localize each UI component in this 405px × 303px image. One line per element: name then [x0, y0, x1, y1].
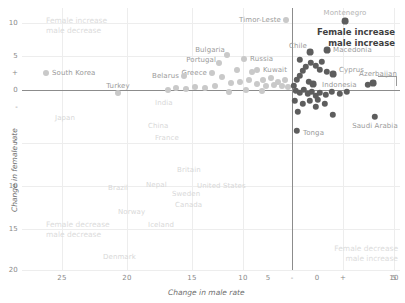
point-label-united-states: United States [197, 182, 246, 190]
point-label-denmark: Denmark [103, 253, 136, 261]
point-label-russia: Russia [250, 55, 273, 63]
point-label-portugal: Portugal [186, 56, 216, 64]
x-tick-label: 10 [389, 274, 398, 282]
point-label-canada: Canada [175, 201, 202, 209]
quadrant-note-bottom-right: Female decrease male increase [280, 244, 398, 264]
data-point [268, 75, 274, 81]
point-label-saudi-arabia: Saudi Arabia [352, 122, 398, 130]
data-point [300, 101, 306, 107]
x-tick-label: 0 [315, 274, 320, 282]
point-label-japan: Japan [55, 114, 75, 122]
point-label-nepal: Nepal [146, 181, 167, 189]
data-point [342, 18, 349, 25]
data-point [165, 87, 171, 93]
data-point [313, 104, 319, 110]
point-label-tonga: Tonga [303, 129, 324, 137]
point-label-macedonia: Macedonia [333, 46, 372, 54]
quadrant-note-bottom-right-line1: Female decrease [280, 244, 398, 254]
x-axis-title: Change in male rate [168, 288, 245, 297]
data-point [319, 59, 325, 65]
x-tick-label: 15 [187, 274, 196, 282]
scatter-plot: Female increase male decrease Female inc… [0, 0, 405, 303]
data-point [228, 80, 234, 86]
point-label-turkey: Turkey [106, 82, 129, 90]
gridline-vertical [243, 8, 244, 270]
quadrant-note-top-left: Female increase male decrease [46, 16, 107, 36]
data-point [307, 98, 313, 104]
point-label-india: India [155, 99, 173, 107]
data-point [317, 67, 323, 73]
point-label-brazil: Brazil [108, 184, 128, 192]
data-point [344, 89, 350, 95]
data-point [372, 114, 378, 120]
data-point [282, 77, 288, 83]
gridline-vertical [192, 8, 193, 270]
quadrant-note-top-right-line1: Female increase [275, 27, 395, 38]
gridline-horizontal [22, 143, 400, 144]
point-label-belarus: Belarus [152, 72, 179, 80]
data-point [219, 74, 225, 80]
quadrant-note-top-left-line2: male decrease [46, 26, 107, 36]
data-point [330, 71, 337, 78]
point-label-china: China [148, 122, 169, 130]
point-label-france: France [155, 134, 179, 142]
quadrant-note-top-left-line1: Female increase [46, 16, 107, 26]
data-point [212, 83, 218, 89]
point-label-indonesia: Indonesia [322, 81, 357, 89]
gridline-vertical [127, 8, 128, 270]
data-point [292, 98, 298, 104]
data-point [173, 85, 179, 91]
y-tick-label: 0 [2, 86, 18, 94]
data-point [297, 57, 303, 63]
x-tick-label: - [291, 274, 294, 282]
point-label-chile: Chile [289, 42, 307, 50]
data-point [315, 97, 321, 103]
point-label-sweden: Sweden [172, 190, 200, 198]
data-point [183, 86, 189, 92]
point-label-south-korea: South Korea [52, 69, 96, 77]
data-point [234, 67, 240, 73]
data-point [192, 84, 198, 90]
data-point [330, 112, 336, 118]
y-tick-label: 5 [2, 52, 18, 60]
point-label-kuwait: Kuwait [263, 66, 287, 74]
data-point [226, 89, 232, 95]
y-tick-label: 10 [2, 19, 18, 27]
quadrant-note-bottom-left-line2: male decrease [46, 230, 110, 240]
quadrant-note-bottom-left: Female decrease male decrease [46, 220, 110, 240]
data-point [202, 85, 208, 91]
point-label-timor-leste: Timor-Leste [239, 16, 281, 24]
data-point [283, 17, 289, 23]
gridline-horizontal [22, 270, 400, 271]
data-point [322, 101, 328, 107]
point-label-montenegro: Montenegro [323, 9, 366, 17]
quadrant-note-bottom-right-line2: male increase [280, 254, 398, 264]
point-label-iceland: Iceland [148, 221, 174, 229]
point-label-azerbaijan: Azerbaijan [359, 70, 397, 78]
data-point [295, 109, 301, 115]
x-tick-label: + [340, 274, 346, 282]
data-point [329, 89, 335, 95]
data-point [294, 128, 300, 134]
y-tick-label: - [2, 103, 18, 111]
x-tick-label: 10 [238, 274, 247, 282]
x-tick-label: 20 [122, 274, 131, 282]
point-label-norway: Norway [118, 208, 145, 216]
quadrant-note-bottom-left-line1: Female decrease [46, 220, 110, 230]
y-axis-title: Change in female rate [10, 128, 19, 212]
data-point [370, 80, 377, 87]
data-point [243, 87, 249, 93]
data-point [254, 81, 260, 87]
data-point [310, 81, 317, 88]
data-point [254, 67, 260, 73]
point-label-bulgaria: Bulgaria [195, 46, 225, 54]
y-tick-label: 20 [2, 266, 18, 274]
data-point [43, 70, 49, 76]
data-point [324, 47, 331, 54]
data-point [209, 70, 215, 76]
x-tick-label: 5 [266, 274, 271, 282]
y-tick-label: 15 [2, 225, 18, 233]
point-label-britain: Britain [177, 166, 201, 174]
data-point [237, 79, 243, 85]
x-tick-label: 25 [57, 274, 66, 282]
